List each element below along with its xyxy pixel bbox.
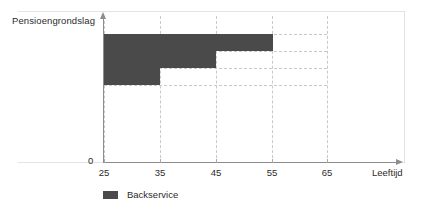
step-block-45-55 [216,34,273,51]
legend-swatch-backservice [103,191,118,199]
tick-mark-55 [272,159,273,163]
gridline-vertical-65 [327,16,328,163]
y-axis-line [103,18,104,163]
y-axis-title: Pensioengrondslag [12,15,95,26]
chart-legend: Backservice [103,189,178,200]
step-block-25-35 [104,34,160,85]
x-axis-arrow-icon [396,159,403,165]
step-block-35-45 [160,34,216,68]
x-axis-line [103,162,398,163]
legend-label-backservice: Backservice [127,189,178,200]
tick-label-x-1: 35 [148,167,172,178]
x-axis-title: Leeftijd [372,167,403,178]
tick-mark-65 [327,159,328,163]
tick-label-x-0: 25 [92,167,116,178]
tick-label-x-2: 45 [204,167,228,178]
tick-label-x-3: 55 [260,167,284,178]
tick-label-y-zero: 0 [88,155,93,166]
y-axis-arrow-icon [100,12,106,19]
chart-container: 25 35 45 55 65 0 Pensioengrondslag Leeft… [0,0,423,211]
gridline-horizontal-1 [104,85,327,86]
tick-mark-25 [104,159,105,163]
tick-mark-45 [216,159,217,163]
tick-label-x-4: 65 [315,167,339,178]
tick-mark-35 [160,159,161,163]
